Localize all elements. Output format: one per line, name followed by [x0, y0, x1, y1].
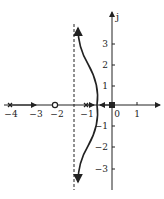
svg-text:−4: −4 [4, 109, 18, 119]
svg-text:1: 1 [134, 109, 140, 119]
svg-text:1: 1 [102, 81, 108, 91]
svg-text:−2: −2 [50, 109, 63, 119]
locus-branch-upper [78, 28, 98, 105]
imag-axis-label: j [115, 11, 119, 22]
svg-text:−3: −3 [29, 109, 43, 119]
pole-marker-origin [109, 102, 115, 108]
svg-text:−2: −2 [95, 142, 108, 152]
svg-text:3: 3 [102, 39, 108, 49]
real-tick-labels: −4 −3 −2 −1 0 1 [4, 109, 140, 119]
root-locus-diagram: j 3 2 1 −1 −2 −3 −4 −3 −2 −1 0 1 [0, 0, 164, 199]
svg-text:0: 0 [114, 109, 120, 119]
svg-text:−3: −3 [95, 164, 109, 174]
zero-marker [52, 102, 57, 107]
svg-text:−1: −1 [80, 109, 93, 119]
svg-text:2: 2 [102, 60, 108, 70]
